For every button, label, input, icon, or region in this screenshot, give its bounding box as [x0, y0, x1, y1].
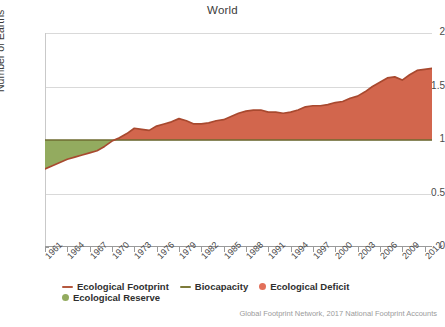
legend-line-swatch-icon — [62, 286, 73, 288]
legend-item[interactable]: Ecological Reserve — [62, 292, 160, 303]
legend-item[interactable]: Ecological Footprint — [62, 281, 169, 292]
legend-dot-swatch-icon — [259, 283, 266, 290]
legend-item-label: Ecological Deficit — [270, 281, 349, 292]
legend-item[interactable]: Biocapacity — [180, 281, 248, 292]
plot-area — [45, 33, 432, 247]
source-attribution: Global Footprint Network, 2017 National … — [0, 309, 437, 318]
area-series-svg — [45, 33, 432, 247]
legend-dot-swatch-icon — [62, 294, 69, 301]
chart-legend: Ecological FootprintBiocapacityEcologica… — [62, 281, 422, 303]
chart-title: World — [0, 4, 445, 16]
chart-container: World Number of Earths 00.511.52 1961196… — [0, 0, 445, 327]
legend-item-label: Ecological Reserve — [73, 292, 160, 303]
legend-line-swatch-icon — [180, 286, 191, 288]
legend-item[interactable]: Ecological Deficit — [259, 281, 349, 292]
legend-row-primary: Ecological FootprintBiocapacityEcologica… — [62, 281, 422, 292]
legend-item-label: Ecological Footprint — [77, 281, 169, 292]
legend-item-label: Biocapacity — [195, 281, 248, 292]
y-axis-title: Number of Earths — [0, 0, 6, 92]
legend-row-secondary: Ecological Reserve — [62, 292, 422, 303]
